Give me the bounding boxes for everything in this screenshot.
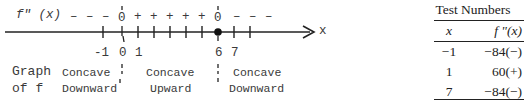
interval-2-line1: Concave (146, 66, 194, 79)
tick-label-0: 0 (119, 46, 127, 60)
function-label: f" (x) (16, 8, 61, 22)
cell-x: 1 (434, 62, 464, 82)
sign-plus-1: + (134, 10, 142, 24)
tick-label-1: 1 (135, 46, 143, 60)
tick-label-7: 7 (231, 46, 239, 60)
header-fx: f "(x) (464, 21, 522, 41)
table-row: 1 60(+) (434, 62, 526, 82)
sign-zero-2: 0 (214, 11, 222, 25)
sign-minus-3: – (102, 10, 110, 24)
table-header-row: x f "(x) (434, 21, 526, 41)
sign-zero-1: 0 (118, 11, 126, 25)
row-label-line2: of f (12, 81, 43, 96)
sign-plus-2: + (150, 10, 158, 24)
interval-3-line1: Concave (233, 66, 281, 79)
tick-label-neg1: -1 (94, 46, 109, 60)
table-row: −1 −84(−) (434, 42, 526, 62)
inflection-point-dot (214, 28, 222, 36)
test-numbers-table: Test Numbers x f "(x) −1 −84(−) 1 60(+) … (434, 2, 526, 100)
axis-label-x: x (319, 24, 327, 38)
sign-plus-3: + (166, 10, 174, 24)
interval-1-line2: Downward (62, 82, 117, 95)
interval-3-line2: Downward (229, 82, 284, 95)
interval-1-line1: Concave (62, 66, 110, 79)
sign-minus-6: – (265, 10, 273, 24)
cell-fx: −84(−) (464, 82, 522, 102)
cell-x: 7 (434, 82, 464, 102)
cell-fx: 60(+) (464, 62, 522, 82)
sign-minus-5: – (249, 10, 257, 24)
sign-plus-5: + (198, 10, 206, 24)
cell-fx: −84(−) (464, 42, 522, 62)
table-row: 7 −84(−) (434, 82, 526, 102)
sign-minus-1: – (70, 10, 78, 24)
interval-2-line2: Upward (150, 82, 191, 95)
sign-plus-4: + (182, 10, 190, 24)
header-x: x (434, 21, 464, 41)
table-title: Test Numbers (428, 2, 518, 18)
row-label-line1: Graph (12, 64, 51, 79)
sign-minus-4: – (233, 10, 241, 24)
sign-minus-2: – (86, 10, 94, 24)
cell-x: −1 (434, 42, 464, 62)
tick-label-6: 6 (215, 46, 223, 60)
